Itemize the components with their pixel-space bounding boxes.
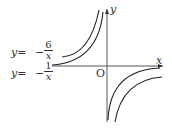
label-lhs: y=	[11, 46, 26, 59]
fraction: 6 x	[44, 40, 53, 61]
curve-neg1-over-x-left	[52, 12, 103, 65]
numerator: 1	[45, 61, 51, 71]
label-lhs: y=	[11, 67, 26, 80]
numerator: 6	[45, 40, 51, 50]
curve-neg6-over-x-right	[115, 77, 162, 122]
y-axis-arrow-icon	[105, 9, 109, 14]
diagram-canvas	[0, 0, 172, 131]
x-axis-label: x	[156, 54, 162, 67]
curve-neg6-over-x-left	[62, 10, 99, 57]
fraction: 1 x	[44, 61, 53, 82]
y-axis-label: y	[110, 3, 116, 16]
label-sign: −	[35, 67, 44, 80]
label-sign: −	[35, 46, 44, 59]
curve-neg1-over-x-right	[108, 68, 160, 120]
denominator: x	[46, 72, 52, 82]
origin-label: O	[96, 67, 105, 80]
